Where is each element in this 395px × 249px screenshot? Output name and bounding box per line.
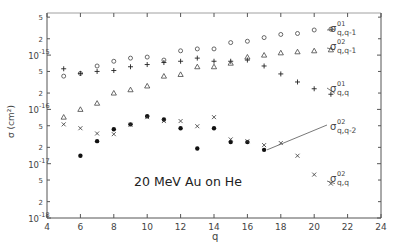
circle-filled-marker <box>78 154 82 158</box>
series-label-sigma: σ <box>330 83 337 94</box>
circle-open-marker <box>279 32 283 36</box>
y-tick-label-minor: 5 <box>39 68 43 76</box>
series-label-subscript: q,q-2 <box>337 126 357 135</box>
triangle-open-marker <box>312 48 317 53</box>
circle-filled-marker <box>195 146 199 150</box>
x-axis-title: q <box>212 231 218 242</box>
x-tick-label: 6 <box>78 222 84 232</box>
cross-marker <box>195 124 199 128</box>
plus-marker <box>312 86 317 91</box>
cross-marker <box>262 143 266 147</box>
y-tick-exponent: -16 <box>39 102 50 110</box>
cross-marker <box>95 131 99 135</box>
series-labels: σ01q,q-1σ02q,q-1σ01q,qσ02q,q-2σ02q,q <box>267 20 357 187</box>
circle-filled-marker <box>178 126 182 130</box>
circle-filled-marker <box>145 114 149 118</box>
circle-open-marker <box>129 56 133 60</box>
x-tick-label: 18 <box>275 222 287 232</box>
y-tick-exponent: -18 <box>39 211 50 219</box>
circle-open-marker <box>296 31 300 35</box>
x-tick-label: 22 <box>342 222 353 232</box>
series-label-superscript: 01 <box>337 20 345 28</box>
y-tick-label-major: 10 <box>28 105 39 115</box>
circle-open-marker <box>179 49 183 53</box>
triangle-open-marker <box>178 72 183 77</box>
triangle-open-marker <box>78 107 83 112</box>
cross-marker <box>62 122 66 126</box>
plus-marker <box>262 63 267 68</box>
triangle-open-marker <box>145 83 150 88</box>
y-tick-label-minor: 2 <box>39 36 43 44</box>
series-label-superscript: 02 <box>337 170 345 178</box>
y-tick-label-minor: 2 <box>39 199 43 207</box>
y-tick-label-minor: 5 <box>39 177 43 185</box>
data-points <box>61 27 333 185</box>
series-label-sigma: σ <box>330 23 337 34</box>
plus-marker <box>111 68 116 73</box>
x-tick-label: 24 <box>375 222 387 232</box>
triangle-open-marker <box>295 49 300 54</box>
y-tick-label-minor: 5 <box>39 123 43 131</box>
cross-marker <box>296 154 300 158</box>
series-label-subscript: q,q-1 <box>337 46 357 55</box>
circle-open-marker <box>312 28 316 32</box>
y-tick-label-major: 10 <box>28 160 39 170</box>
x-tick-label: 8 <box>111 222 117 232</box>
series-label-superscript: 02 <box>337 118 345 126</box>
triangle-open-marker <box>111 90 116 95</box>
cross-marker <box>112 132 116 136</box>
chart-container: 468101214161820222410-182510-172510-1625… <box>0 0 395 249</box>
plus-marker <box>212 59 217 64</box>
plus-marker <box>145 62 150 67</box>
circle-open-marker <box>262 36 266 40</box>
triangle-open-marker <box>128 87 133 92</box>
y-tick-label-minor: 2 <box>39 144 43 152</box>
circle-open-marker <box>112 59 116 63</box>
cross-marker <box>179 119 183 123</box>
series-label-sigma: σ <box>330 121 337 132</box>
plus-marker <box>195 56 200 61</box>
x-tick-label: 4 <box>44 222 50 232</box>
scatter-plot: 468101214161820222410-182510-172510-1625… <box>0 0 395 249</box>
series-label-superscript: 02 <box>337 38 345 46</box>
circle-filled-marker <box>95 139 99 143</box>
plus-marker <box>95 69 100 74</box>
plus-marker <box>78 71 83 76</box>
series-label-sigma: σ <box>330 41 337 52</box>
series-label-subscript: q,q <box>337 178 349 187</box>
circle-filled-marker <box>212 126 216 130</box>
plus-marker <box>128 64 133 69</box>
triangle-open-marker <box>61 115 66 120</box>
cross-marker <box>78 126 82 130</box>
y-tick-label-major: 10 <box>28 214 39 224</box>
circle-open-marker <box>95 64 99 68</box>
circle-filled-marker <box>112 127 116 131</box>
triangle-open-marker <box>161 74 166 79</box>
plus-marker <box>295 79 300 84</box>
series-label-subscript: q,q-1 <box>337 28 357 37</box>
triangle-open-marker <box>262 53 267 58</box>
x-tick-label: 20 <box>308 222 320 232</box>
triangle-open-marker <box>195 64 200 69</box>
x-tick-label: 12 <box>175 222 186 232</box>
triangle-open-marker <box>211 64 216 69</box>
plus-marker <box>278 71 283 76</box>
y-tick-exponent: -15 <box>39 48 50 56</box>
triangle-open-marker <box>95 101 100 106</box>
leader-line <box>267 125 327 150</box>
y-tick-label-minor: 2 <box>39 90 43 98</box>
cross-marker <box>212 115 216 119</box>
circle-open-marker <box>245 39 249 43</box>
plus-marker <box>61 66 66 71</box>
x-tick-label: 10 <box>141 222 153 232</box>
circle-open-marker <box>229 41 233 45</box>
cross-marker <box>312 173 316 177</box>
triangle-open-marker <box>278 50 283 55</box>
series-label-superscript: 01 <box>337 80 345 88</box>
y-axis-title: σ (cm²) <box>6 105 16 138</box>
circle-filled-marker <box>245 140 249 144</box>
y-tick-label-minor: 5 <box>39 14 43 22</box>
circle-open-marker <box>195 47 199 51</box>
plus-marker <box>178 59 183 64</box>
circle-open-marker <box>212 47 216 51</box>
